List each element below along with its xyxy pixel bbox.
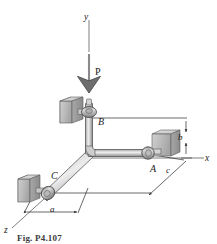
load-label-p: P bbox=[95, 67, 101, 77]
bearing-support-a bbox=[142, 130, 180, 159]
axis-label-x: x bbox=[205, 154, 209, 164]
joint-label-c: C bbox=[51, 171, 58, 181]
dimension-label-b: b bbox=[178, 133, 183, 142]
dimension-label-c: c bbox=[166, 166, 170, 175]
axis-label-y: y bbox=[84, 13, 88, 23]
axis-label-z: z bbox=[4, 226, 8, 236]
pipe-assembly-diagram bbox=[0, 0, 217, 244]
joint-label-b: B bbox=[98, 117, 104, 127]
figure-container: y x z P B A C b c a Fig. P4.107 bbox=[0, 0, 217, 244]
dimension-label-a: a bbox=[50, 205, 55, 214]
joint-label-a: A bbox=[150, 164, 156, 174]
figure-caption: Fig. P4.107 bbox=[17, 233, 62, 244]
